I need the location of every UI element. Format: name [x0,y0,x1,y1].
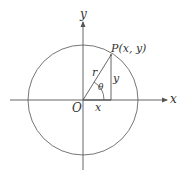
origin-label: O [72,102,82,114]
horizontal-segment-label: x [95,102,101,113]
y-axis-label: y [80,8,87,20]
x-axis-label: x [170,93,177,105]
point-p-label: P(x, y) [111,43,146,54]
radius-label: r [92,67,97,78]
angle-label: θ [98,83,103,92]
diagram-canvas [0,0,183,177]
vertical-segment-label: y [113,73,119,84]
